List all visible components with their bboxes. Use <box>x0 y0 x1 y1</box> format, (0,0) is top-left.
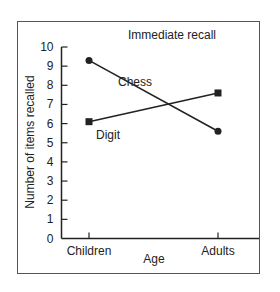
y-tick-label: 6 <box>47 117 54 131</box>
y-tick-label: 10 <box>40 40 54 54</box>
y-tick-label: 9 <box>47 59 54 73</box>
y-tick-label: 3 <box>47 174 54 188</box>
y-tick-label: 0 <box>47 232 54 246</box>
chart: Immediate recall Number of items recalle… <box>0 0 280 292</box>
series-line-digit <box>89 93 218 122</box>
chart-frame <box>18 22 260 274</box>
series-label-chess: Chess <box>118 75 152 89</box>
y-tick-label: 1 <box>47 212 54 226</box>
chart-title: Immediate recall <box>128 28 216 42</box>
y-tick-label: 8 <box>47 78 54 92</box>
series-label-digit: Digit <box>96 128 121 142</box>
data-point-digit <box>215 89 222 96</box>
y-tick-label: 2 <box>47 193 54 207</box>
series-group: ChessDigit <box>86 57 222 142</box>
x-tick-label: Adults <box>201 244 234 258</box>
data-point-chess <box>215 128 222 135</box>
axes <box>62 47 260 239</box>
data-point-digit <box>86 118 93 125</box>
y-tick-label: 4 <box>47 155 54 169</box>
y-tick-label: 5 <box>47 136 54 150</box>
y-axis-label: Number of items recalled <box>23 75 37 208</box>
series-line-chess <box>89 60 218 131</box>
y-ticks: 012345678910 <box>40 40 67 246</box>
y-tick-label: 7 <box>47 97 54 111</box>
x-tick-label: Children <box>67 244 112 258</box>
data-point-chess <box>86 57 93 64</box>
x-axis-label: Age <box>143 252 165 266</box>
